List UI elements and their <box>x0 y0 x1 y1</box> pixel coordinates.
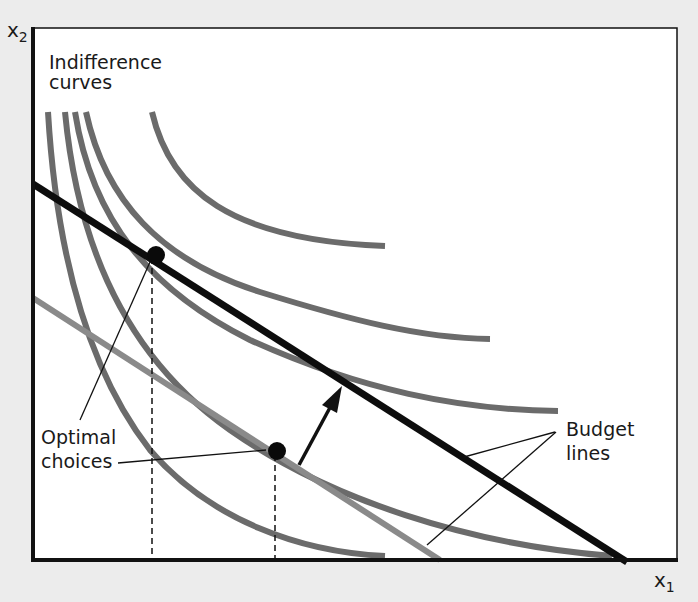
income-change-diagram: x2 x1 Indifference curves Optimal choice… <box>0 0 698 602</box>
x-axis-label: x1 <box>654 568 675 595</box>
optimal-point-new <box>147 246 165 264</box>
budget-lines-label-line2: lines <box>566 442 610 464</box>
indifference-curves-label-line1: Indifference <box>49 51 162 73</box>
optimal-choices-label-line1: Optimal <box>41 426 116 448</box>
plot-area <box>33 28 677 560</box>
budget-lines-label-line1: Budget <box>566 418 634 440</box>
indifference-curves-label-line2: curves <box>49 71 112 93</box>
optimal-choices-label-line2: choices <box>41 450 112 472</box>
y-axis-label: x2 <box>7 18 28 45</box>
optimal-point-original <box>268 442 286 460</box>
